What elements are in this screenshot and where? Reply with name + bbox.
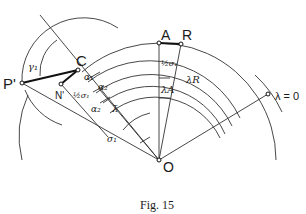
label-C: C <box>76 52 87 69</box>
label-alpha1: α₁ <box>84 72 94 82</box>
label-sigma1-bottom: σ₁ <box>107 134 117 144</box>
line-O-P <box>22 83 159 160</box>
point-lambda0-marker <box>266 92 270 96</box>
label-lambda-R: λR <box>185 74 200 85</box>
figure-caption: Fig. 15 <box>140 198 174 212</box>
label-lambda-A: λA <box>160 84 175 95</box>
point-O-marker <box>157 158 161 162</box>
segment-A-R <box>159 43 181 44</box>
label-gamma1: γ₁ <box>28 61 38 72</box>
label-alpha2-b: α₂ <box>91 104 101 114</box>
label-O: O <box>163 159 174 175</box>
line-O-lambda0 <box>159 94 268 160</box>
label-R: R <box>182 27 192 43</box>
label-alpha2-a: α₂ <box>98 82 108 92</box>
figure-15-diagram: P' N' C A R λ = 0 O γ₁ α₁ ½σ₁ α₂ α₂ λ̄ σ… <box>0 0 306 214</box>
label-lambda-bar: λ̄ <box>111 103 118 114</box>
label-N: N' <box>55 90 64 101</box>
label-A: A <box>161 27 171 43</box>
arc-P-upper <box>22 18 118 83</box>
label-P: P' <box>3 75 16 92</box>
label-lambda-zero: λ = 0 <box>275 90 299 102</box>
label-half-sigma1-top: ½σ₁ <box>161 59 177 68</box>
arc-gamma1 <box>40 40 57 76</box>
arc-P-lower <box>19 95 28 160</box>
point-P-marker <box>20 81 24 85</box>
label-half-sigma1-left: ½σ₁ <box>73 91 89 100</box>
arc-4 <box>110 97 220 138</box>
line-O-mid <box>100 90 159 160</box>
point-N-marker <box>59 82 63 86</box>
